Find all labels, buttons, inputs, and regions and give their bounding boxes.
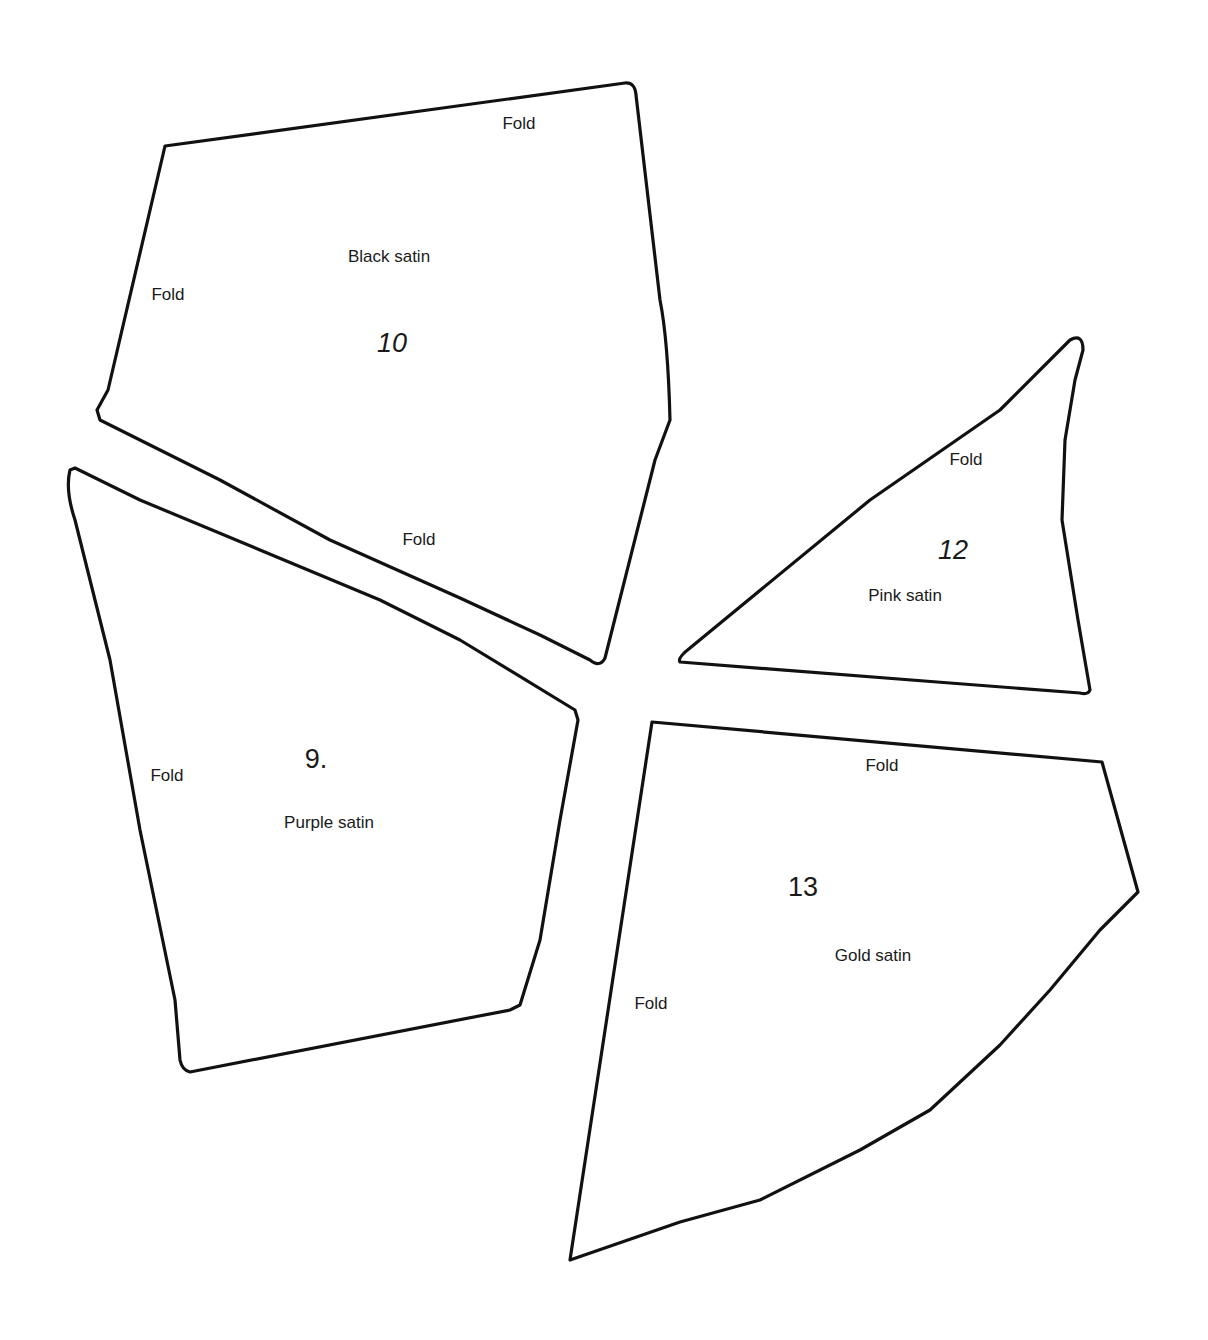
- piece-13-fold-label-left: Fold: [634, 994, 667, 1014]
- piece-9-material-label: Purple satin: [284, 813, 374, 833]
- piece-12-material-label: Pink satin: [868, 586, 942, 606]
- piece-10-fold-label-top: Fold: [502, 114, 535, 134]
- piece-13-outline: [570, 722, 1138, 1260]
- pattern-sheet: [0, 0, 1208, 1340]
- piece-12-fold-label: Fold: [949, 450, 982, 470]
- piece-12-outline: [679, 338, 1090, 694]
- piece-13-material-label: Gold satin: [835, 946, 912, 966]
- piece-10-fold-label-left: Fold: [151, 285, 184, 305]
- piece-9-fold-label: Fold: [150, 766, 183, 786]
- piece-10-fold-label-bottom: Fold: [402, 530, 435, 550]
- piece-10-material-label: Black satin: [348, 247, 430, 267]
- piece-10-number: 10: [377, 328, 407, 359]
- piece-13-number: 13: [788, 872, 818, 903]
- piece-12-number: 12: [938, 535, 968, 566]
- piece-13-fold-label-top: Fold: [865, 756, 898, 776]
- piece-9-number: 9.: [305, 744, 328, 775]
